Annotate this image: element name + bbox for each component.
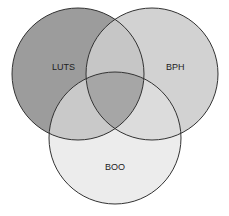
bph-label: BPH	[166, 62, 185, 72]
luts-label: LUTS	[52, 62, 75, 72]
boo-label: BOO	[105, 162, 125, 172]
venn-diagram: LUTS BPH BOO	[0, 0, 229, 216]
